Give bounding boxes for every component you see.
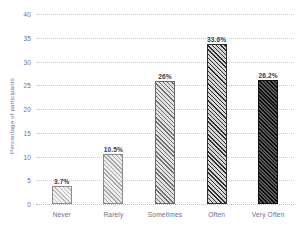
- bar[interactable]: 33.6%: [207, 44, 227, 204]
- bar[interactable]: 3.7%: [52, 186, 72, 204]
- y-axis-tick-label: 10: [23, 153, 31, 160]
- y-axis-tick-label: 35: [23, 34, 31, 41]
- y-axis-tick-label: 25: [23, 82, 31, 89]
- bar-value-label: 33.6%: [207, 36, 226, 43]
- bar-value-label: 3.7%: [54, 178, 69, 185]
- x-axis-tick-label: Sometimes: [148, 211, 182, 218]
- y-axis-tick-label: 5: [27, 177, 31, 184]
- x-axis-tick-label: Very Often: [252, 211, 285, 218]
- y-axis-tick-label: 15: [23, 129, 31, 136]
- x-axis-tick-label: Never: [53, 211, 71, 218]
- y-axis-tick-label: 20: [23, 106, 31, 113]
- gridline: [36, 204, 294, 205]
- y-axis-tick-label: 40: [23, 11, 31, 18]
- bar-group: 26.2%Very Often: [242, 14, 294, 204]
- y-axis-title: Percentage of participants: [8, 36, 15, 196]
- bar-group: 26%Sometimes: [139, 14, 191, 204]
- bar-group: 33.6%Often: [191, 14, 243, 204]
- bar[interactable]: 10.5%: [103, 154, 123, 204]
- bar-group: 10.5%Rarely: [88, 14, 140, 204]
- bar[interactable]: 26%: [155, 81, 175, 205]
- bar-group: 3.7%Never: [36, 14, 88, 204]
- bar-value-label: 26%: [158, 73, 172, 80]
- bar-value-label: 26.2%: [259, 72, 278, 79]
- plot-area: 0510152025303540 3.7%Never10.5%Rarely26%…: [36, 14, 294, 204]
- y-axis-tick-label: 0: [27, 201, 31, 208]
- bar[interactable]: 26.2%: [258, 80, 278, 204]
- x-axis-tick-label: Often: [208, 211, 225, 218]
- bar-value-label: 10.5%: [104, 146, 123, 153]
- x-axis-tick-label: Rarely: [103, 211, 123, 218]
- y-axis-tick-label: 30: [23, 58, 31, 65]
- bar-series: 3.7%Never10.5%Rarely26%Sometimes33.6%Oft…: [36, 14, 294, 204]
- bar-chart: Percentage of participants 0510152025303…: [0, 0, 302, 240]
